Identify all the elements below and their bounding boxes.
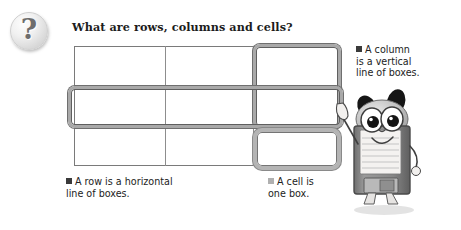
figure-canvas: ? What are rows, columns and cells? A co… bbox=[0, 0, 461, 230]
eye-glint-left bbox=[369, 118, 373, 122]
floppy-label bbox=[360, 130, 401, 174]
caption-column-line-2: is a vertical bbox=[356, 56, 411, 67]
caption-row-line-1: A row is a horizontal bbox=[75, 176, 173, 187]
caption-column-line-1: A column bbox=[365, 44, 410, 55]
eye-glint-right bbox=[389, 117, 393, 121]
question-mark-badge: ? bbox=[10, 12, 48, 50]
floppy-disk-character bbox=[334, 86, 430, 216]
question-mark-icon: ? bbox=[10, 12, 48, 50]
caption-column-line-3: line of boxes. bbox=[356, 67, 420, 78]
pupil-left bbox=[367, 116, 379, 128]
shutter-window bbox=[380, 180, 394, 191]
pupil-right bbox=[387, 115, 399, 127]
caption-column: A column is a vertical line of boxes. bbox=[356, 44, 460, 79]
arm-right bbox=[410, 146, 417, 168]
row-highlight-outline bbox=[68, 86, 343, 128]
square-bullet-icon bbox=[268, 178, 274, 184]
square-bullet-icon bbox=[356, 46, 362, 52]
caption-row-line-2: line of boxes. bbox=[66, 188, 130, 199]
page-title: What are rows, columns and cells? bbox=[72, 20, 293, 34]
square-bullet-icon bbox=[66, 178, 72, 184]
cell-highlight-outline bbox=[253, 128, 341, 170]
caption-cell-line-1: A cell is bbox=[277, 176, 314, 187]
hand-pointing-icon bbox=[336, 103, 348, 120]
caption-cell-line-2: one box. bbox=[268, 188, 309, 199]
hand-right bbox=[412, 167, 421, 176]
mascot-shadow bbox=[354, 205, 414, 215]
caption-row: A row is a horizontal line of boxes. bbox=[66, 176, 246, 199]
